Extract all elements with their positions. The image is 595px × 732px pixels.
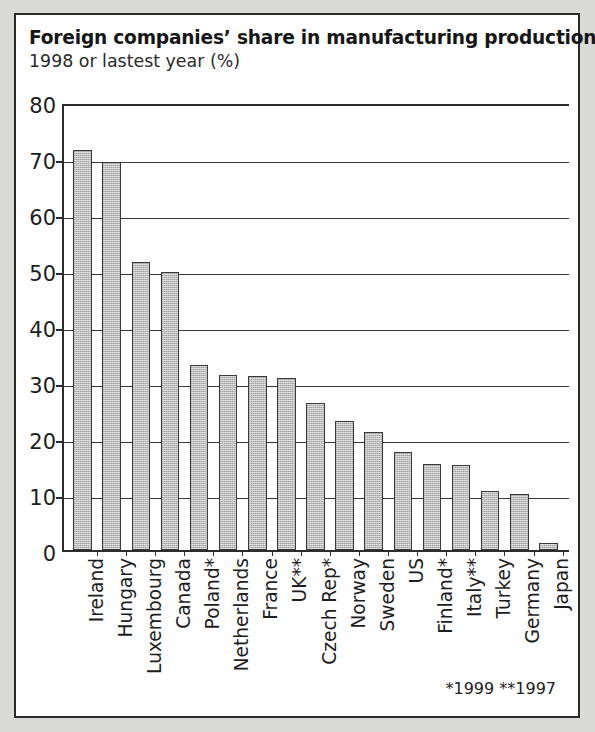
x-tick-mark-6: [272, 550, 273, 556]
y-tick-mark-40: [56, 329, 64, 331]
y-tick-label-40: 40: [29, 318, 56, 342]
x-tick-mark-16: [563, 550, 564, 556]
x-label-norway: Norway: [350, 558, 369, 629]
x-tick-mark-11: [417, 550, 418, 556]
plot-area: 01020304050607080: [62, 104, 569, 552]
bar-norway: [335, 421, 354, 550]
x-label-sweden: Sweden: [379, 558, 398, 631]
y-tick-label-60: 60: [29, 206, 56, 230]
bar-netherlands: [219, 375, 238, 550]
y-tick-mark-20: [56, 441, 64, 443]
x-label-turkey: Turkey: [495, 558, 514, 619]
x-label-finland: Finland*: [437, 558, 456, 634]
bar-poland: [190, 365, 209, 550]
bar-france: [248, 376, 267, 550]
x-label-japan: Japan: [553, 558, 572, 610]
x-label-poland: Poland*: [204, 558, 223, 629]
x-tick-mark-14: [504, 550, 505, 556]
bar-us: [394, 452, 413, 550]
x-label-us: US: [408, 558, 427, 583]
x-label-france: France: [262, 558, 281, 620]
chart-title: Foreign companies’ share in manufacturin…: [29, 27, 570, 48]
bar-ireland: [73, 150, 92, 550]
bar-hungary: [102, 162, 121, 550]
y-tick-mark-50: [56, 273, 64, 275]
x-axis-category-labels: IrelandHungaryLuxembourgCanadaPoland*Net…: [62, 558, 569, 688]
x-tick-mark-15: [534, 550, 535, 556]
x-tick-mark-5: [242, 550, 243, 556]
chart-figure-panel: Foreign companies’ share in manufacturin…: [14, 13, 580, 718]
chart-footnote: *1999 **1997: [445, 679, 556, 698]
x-label-ireland: Ireland: [88, 558, 107, 622]
bar-germany: [510, 494, 529, 550]
x-label-canada: Canada: [175, 558, 194, 629]
x-tick-mark-8: [330, 550, 331, 556]
y-tick-mark-10: [56, 497, 64, 499]
y-tick-mark-70: [56, 161, 64, 163]
y-tick-label-30: 30: [29, 374, 56, 398]
x-label-uk: UK**: [291, 558, 310, 602]
x-tick-mark-4: [213, 550, 214, 556]
x-tick-mark-3: [184, 550, 185, 556]
x-label-italy: Italy**: [466, 558, 485, 617]
chart-subtitle: 1998 or lastest year (%): [29, 51, 570, 72]
x-label-hungary: Hungary: [117, 558, 136, 637]
y-tick-label-70: 70: [29, 150, 56, 174]
y-tick-label-10: 10: [29, 486, 56, 510]
bar-uk: [277, 378, 296, 550]
bar-finland: [423, 464, 442, 550]
x-label-germany: Germany: [524, 558, 543, 643]
bar-luxembourg: [132, 262, 151, 550]
bar-czech-rep: [306, 403, 325, 550]
bar-turkey: [481, 491, 500, 550]
y-tick-mark-30: [56, 385, 64, 387]
y-tick-label-80: 80: [29, 94, 56, 118]
x-tick-mark-13: [475, 550, 476, 556]
x-label-luxembourg: Luxembourg: [146, 558, 165, 674]
y-tick-mark-60: [56, 217, 64, 219]
x-tick-mark-7: [301, 550, 302, 556]
bar-canada: [161, 272, 180, 550]
y-tick-label-0: 0: [43, 542, 56, 566]
x-tick-mark-1: [126, 550, 127, 556]
bars-layer: [64, 106, 569, 550]
bar-italy: [452, 465, 471, 550]
y-tick-label-20: 20: [29, 430, 56, 454]
y-tick-label-50: 50: [29, 262, 56, 286]
bar-sweden: [364, 432, 383, 550]
x-tick-mark-10: [388, 550, 389, 556]
x-tick-mark-2: [155, 550, 156, 556]
x-tick-mark-12: [446, 550, 447, 556]
x-tick-mark-9: [359, 550, 360, 556]
chart-header: Foreign companies’ share in manufacturin…: [29, 27, 570, 72]
bar-japan: [539, 543, 558, 550]
x-label-czech-rep: Czech Rep*: [321, 558, 340, 665]
x-label-netherlands: Netherlands: [233, 558, 252, 671]
x-tick-mark-0: [97, 550, 98, 556]
